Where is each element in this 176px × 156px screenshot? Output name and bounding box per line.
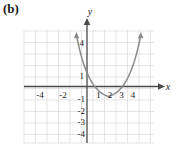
x-tick-label: 2: [108, 90, 113, 100]
parabola-path: [77, 37, 141, 97]
y-tick-label: 1: [80, 71, 85, 81]
x-axis-label: x: [165, 81, 171, 92]
y-tick-label: -3: [78, 117, 86, 127]
y-axis-arrow-icon: [84, 18, 91, 25]
y-axis-label: y: [87, 6, 93, 17]
x-tick-label: 3: [119, 90, 124, 100]
parabola-graph: -4 -2 1 2 3 4 4 1 -1 -2 -3 -4 x y: [0, 0, 176, 156]
x-tick-label: -4: [36, 90, 44, 100]
y-tick-label: 4: [80, 38, 85, 48]
y-tick-label: -4: [78, 129, 86, 139]
x-tick-label: -2: [59, 90, 67, 100]
y-tick-label: -1: [78, 94, 86, 104]
x-tick-label: 4: [131, 90, 136, 100]
panel-label: (b): [3, 2, 19, 15]
x-axis-tick-labels: -4 -2 1 2 3 4: [36, 90, 136, 100]
x-tick-label: 1: [96, 90, 101, 100]
y-tick-label: -2: [78, 106, 86, 116]
figure-panel: (b): [0, 0, 176, 156]
axes: [24, 18, 165, 143]
curve-right-arrow-icon: [138, 32, 144, 39]
x-axis-arrow-icon: [158, 83, 165, 90]
